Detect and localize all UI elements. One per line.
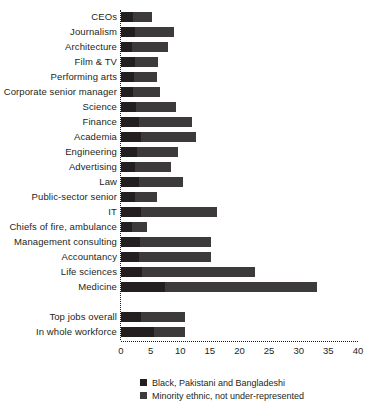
bar-row (121, 267, 358, 277)
category-label: Finance (0, 117, 117, 127)
bar-segment-black-pakistani-bangladeshi (121, 72, 134, 82)
category-label: CEOs (0, 12, 117, 22)
bar-segment-black-pakistani-bangladeshi (121, 222, 132, 232)
category-label: Journalism (0, 27, 117, 37)
chart-legend: Black, Pakistani and BangladeshiMinority… (140, 377, 376, 403)
bar-row (121, 147, 358, 157)
ethnic-representation-bar-chart: % CEOsJournalismArchitectureFilm & TVPer… (0, 0, 376, 414)
bar-segment-minority-ethnic-not-under-represented (135, 192, 156, 202)
bar-segment-black-pakistani-bangladeshi (121, 27, 135, 37)
legend-swatch-icon (140, 379, 147, 386)
bar-segment-black-pakistani-bangladeshi (121, 267, 142, 277)
x-tick-label: 25 (264, 345, 275, 356)
x-tick-label: 10 (175, 345, 186, 356)
bar-segment-black-pakistani-bangladeshi (121, 132, 141, 142)
category-label: Performing arts (0, 72, 117, 82)
category-label: Life sciences (0, 267, 117, 277)
bar-segment-black-pakistani-bangladeshi (121, 312, 141, 322)
bar-segment-minority-ethnic-not-under-represented (139, 252, 211, 262)
bar-row (121, 132, 358, 142)
category-label: Academia (0, 132, 117, 142)
category-label: Top jobs overall (0, 312, 117, 322)
bar-segment-black-pakistani-bangladeshi (121, 12, 133, 22)
category-label: In whole workforce (0, 327, 117, 337)
bar-segment-black-pakistani-bangladeshi (121, 282, 165, 292)
bar-row (121, 207, 358, 217)
bar-row (121, 237, 358, 247)
category-label: Film & TV (0, 57, 117, 67)
bar-row (121, 177, 358, 187)
bar-segment-black-pakistani-bangladeshi (121, 42, 132, 52)
x-tick-label: 30 (293, 345, 304, 356)
bar-row (121, 192, 358, 202)
category-label: Public-sector senior (0, 192, 117, 202)
bar-segment-minority-ethnic-not-under-represented (136, 102, 176, 112)
category-label: Law (0, 177, 117, 187)
plot-area (121, 10, 358, 340)
bar-segment-minority-ethnic-not-under-represented (135, 162, 171, 172)
bar-segment-black-pakistani-bangladeshi (121, 102, 136, 112)
bar-segment-minority-ethnic-not-under-represented (142, 267, 255, 277)
bar-segment-black-pakistani-bangladeshi (121, 327, 154, 337)
legend-label: Minority ethnic, not under-represented (152, 391, 304, 401)
bar-row (121, 12, 358, 22)
bar-row (121, 72, 358, 82)
bar-segment-black-pakistani-bangladeshi (121, 162, 135, 172)
bar-segment-minority-ethnic-not-under-represented (154, 327, 185, 337)
legend-item[interactable]: Black, Pakistani and Bangladeshi (140, 377, 376, 388)
bar-row (121, 87, 358, 97)
bar-segment-minority-ethnic-not-under-represented (133, 12, 153, 22)
bar-segment-black-pakistani-bangladeshi (121, 207, 141, 217)
bar-segment-black-pakistani-bangladeshi (121, 87, 133, 97)
bar-segment-black-pakistani-bangladeshi (121, 117, 139, 127)
x-tick-label: 35 (323, 345, 334, 356)
bar-row (121, 282, 358, 292)
bar-row (121, 102, 358, 112)
bar-segment-black-pakistani-bangladeshi (121, 237, 140, 247)
bar-segment-minority-ethnic-not-under-represented (137, 147, 178, 157)
bar-row (121, 312, 358, 322)
category-label: Accountancy (0, 252, 117, 262)
category-label: Engineering (0, 147, 117, 157)
bar-segment-minority-ethnic-not-under-represented (141, 132, 196, 142)
bar-segment-minority-ethnic-not-under-represented (132, 222, 147, 232)
category-label: Chiefs of fire, ambulance (0, 222, 117, 232)
category-axis-labels: CEOsJournalismArchitectureFilm & TVPerfo… (0, 10, 117, 340)
bar-segment-black-pakistani-bangladeshi (121, 252, 139, 262)
category-label: Corporate senior manager (0, 87, 117, 97)
bar-segment-minority-ethnic-not-under-represented (139, 177, 183, 187)
bar-segment-black-pakistani-bangladeshi (121, 57, 135, 67)
x-tick-label: 40 (353, 345, 364, 356)
bar-segment-minority-ethnic-not-under-represented (140, 237, 211, 247)
category-label: Advertising (0, 162, 117, 172)
x-tick-label: 20 (234, 345, 245, 356)
x-tick-label: 5 (148, 345, 153, 356)
bar-segment-black-pakistani-bangladeshi (121, 147, 137, 157)
bar-segment-minority-ethnic-not-under-represented (134, 72, 157, 82)
bar-segment-minority-ethnic-not-under-represented (141, 207, 217, 217)
bar-row (121, 222, 358, 232)
bar-segment-minority-ethnic-not-under-represented (135, 57, 159, 67)
legend-label: Black, Pakistani and Bangladeshi (152, 378, 285, 388)
category-label: Management consulting (0, 237, 117, 247)
x-axis-line (121, 341, 358, 342)
x-tick-label: 0 (118, 345, 123, 356)
bar-row (121, 327, 358, 337)
category-label: IT (0, 207, 117, 217)
bar-segment-black-pakistani-bangladeshi (121, 192, 135, 202)
bar-segment-black-pakistani-bangladeshi (121, 177, 139, 187)
bar-row (121, 42, 358, 52)
category-label: Medicine (0, 282, 117, 292)
bar-segment-minority-ethnic-not-under-represented (133, 87, 160, 97)
bar-segment-minority-ethnic-not-under-represented (135, 27, 174, 37)
category-label: Architecture (0, 42, 117, 52)
bar-segment-minority-ethnic-not-under-represented (139, 117, 192, 127)
bar-segment-minority-ethnic-not-under-represented (165, 282, 316, 292)
bar-row (121, 57, 358, 67)
x-tick-label: 15 (205, 345, 216, 356)
legend-item[interactable]: Minority ethnic, not under-represented (140, 390, 376, 401)
bar-row (121, 27, 358, 37)
bar-segment-minority-ethnic-not-under-represented (141, 312, 185, 322)
bar-row (121, 162, 358, 172)
bar-segment-minority-ethnic-not-under-represented (132, 42, 169, 52)
